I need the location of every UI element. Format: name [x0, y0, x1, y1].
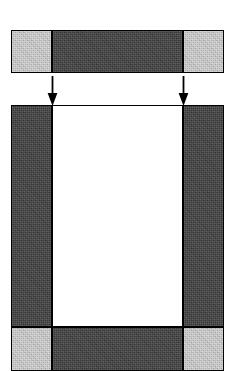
diagram-canvas: [0, 0, 235, 371]
bottom-center-segment: [52, 327, 183, 371]
left-arrow-down-icon: [46, 76, 59, 106]
frame-right-column: [183, 105, 224, 327]
frame-center-area: [52, 105, 183, 327]
bottom-left-corner: [11, 327, 52, 371]
top-center-segment: [52, 30, 183, 73]
right-arrow-down-icon: [177, 76, 190, 106]
top-left-segment: [11, 30, 52, 73]
bottom-right-corner: [183, 327, 224, 371]
top-right-segment: [183, 30, 224, 73]
frame-left-column: [11, 105, 52, 327]
